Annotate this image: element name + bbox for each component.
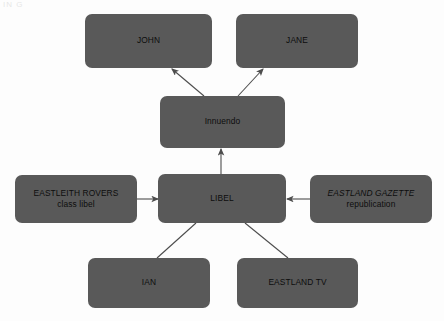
node-eastland-gazette[interactable]: EASTLAND GAZETTE republication	[310, 175, 432, 223]
edge-innuendo-to-jane	[238, 69, 263, 96]
node-john-label: JOHN	[137, 35, 160, 46]
node-ian-label: IAN	[142, 277, 156, 288]
edge-innuendo-to-john	[172, 69, 204, 96]
node-eastland-tv-label: EASTLAND TV	[268, 277, 326, 288]
node-eastland-tv[interactable]: EASTLAND TV	[237, 258, 358, 308]
node-eastleith-rovers-sublabel: class libel	[57, 199, 94, 210]
node-eastland-gazette-label: EASTLAND GAZETTE	[328, 188, 415, 199]
node-libel[interactable]: LIBEL	[158, 174, 286, 223]
node-innuendo[interactable]: Innuendo	[160, 96, 285, 148]
edge-layer	[0, 0, 444, 321]
node-eastleith-rovers-label: EASTLEITH ROVERS	[34, 188, 119, 199]
corner-artifact-text: IN G	[3, 0, 47, 9]
node-ian[interactable]: IAN	[88, 258, 210, 308]
node-john[interactable]: JOHN	[85, 14, 212, 68]
node-innuendo-label: Innuendo	[205, 116, 241, 127]
diagram-canvas: IN G JOHN JANE Innuendo EASTLEITH ROVERS…	[0, 0, 444, 321]
edge-eastland-tv-to-libel	[245, 223, 288, 258]
node-libel-label: LIBEL	[210, 193, 233, 204]
node-eastleith-rovers[interactable]: EASTLEITH ROVERS class libel	[15, 175, 137, 223]
node-jane[interactable]: JANE	[236, 14, 358, 68]
node-jane-label: JANE	[286, 35, 308, 46]
node-eastland-gazette-sublabel: republication	[347, 199, 396, 210]
edge-ian-to-libel	[157, 223, 196, 258]
